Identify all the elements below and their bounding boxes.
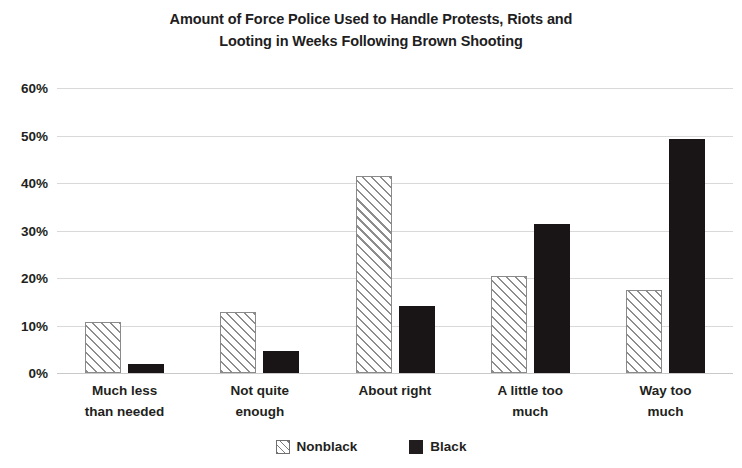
legend-item-black[interactable]: Black: [409, 439, 466, 454]
bar-black: [128, 364, 164, 374]
chart-title-line-2: Looting in Weeks Following Brown Shootin…: [0, 30, 742, 52]
bar-black: [534, 224, 570, 373]
x-axis-category-label-line: than needed: [57, 401, 192, 422]
bar-nonblack: [220, 312, 256, 373]
bar-nonblack: [356, 176, 392, 373]
chart-title: Amount of Force Police Used to Handle Pr…: [0, 8, 742, 52]
bar-black: [263, 351, 299, 373]
x-axis-category-label-line: much: [598, 401, 733, 422]
chart-legend: NonblackBlack: [0, 439, 742, 454]
x-axis-category-label-line: Way too: [598, 380, 733, 401]
x-axis-category-label: A little toomuch: [463, 380, 598, 422]
x-axis-category-label-line: A little too: [463, 380, 598, 401]
legend-item-nonblack[interactable]: Nonblack: [276, 439, 358, 454]
filled-square-icon: [409, 440, 423, 454]
bar-black: [399, 306, 435, 373]
legend-label: Nonblack: [297, 439, 358, 454]
x-axis-category-label-line: Not quite: [192, 380, 327, 401]
legend-label: Black: [430, 439, 466, 454]
y-axis-tick-label: 40%: [0, 176, 48, 191]
y-axis-tick-label: 20%: [0, 271, 48, 286]
bar-group: [626, 88, 705, 373]
y-axis-tick-label: 60%: [0, 81, 48, 96]
bar-nonblack: [626, 290, 662, 373]
bar-nonblack: [85, 322, 121, 373]
bar-black: [669, 139, 705, 373]
x-axis-category-label: Way toomuch: [598, 380, 733, 422]
y-axis-tick-label: 0%: [0, 366, 48, 381]
plot-area: [57, 88, 733, 373]
bar-chart: Amount of Force Police Used to Handle Pr…: [0, 0, 742, 468]
hatched-square-icon: [276, 440, 290, 454]
y-axis-tick-label: 10%: [0, 318, 48, 333]
chart-title-line-1: Amount of Force Police Used to Handle Pr…: [0, 8, 742, 30]
x-axis-category-label-line: much: [463, 401, 598, 422]
x-axis-category-label-line: enough: [192, 401, 327, 422]
y-axis-tick-label: 50%: [0, 128, 48, 143]
bar-group: [85, 88, 164, 373]
bar-group: [220, 88, 299, 373]
x-axis-category-label: About right: [327, 380, 462, 401]
x-axis-category-label: Not quiteenough: [192, 380, 327, 422]
x-axis-category-label-line: About right: [327, 380, 462, 401]
x-axis-category-label-line: Much less: [57, 380, 192, 401]
bar-nonblack: [491, 276, 527, 373]
axis-baseline: [57, 373, 733, 374]
bar-group: [356, 88, 435, 373]
x-axis-labels: Much lessthan neededNot quiteenoughAbout…: [57, 380, 733, 432]
y-axis-tick-label: 30%: [0, 223, 48, 238]
x-axis-category-label: Much lessthan needed: [57, 380, 192, 422]
bar-group: [491, 88, 570, 373]
